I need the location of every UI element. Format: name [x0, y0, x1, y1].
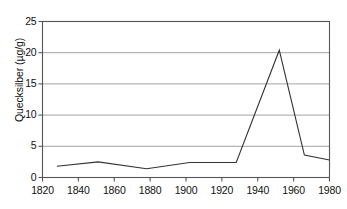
x-tick-label: 1900 — [168, 184, 204, 196]
x-tick-label: 1920 — [204, 184, 240, 196]
plot-border-group — [43, 22, 330, 178]
y-tick-label: 5 — [15, 139, 37, 151]
x-tick-label: 1880 — [132, 184, 168, 196]
y-tick-label: 15 — [15, 77, 37, 89]
chart-container: Quecksilber (µg/g) 0510152025 1820184018… — [0, 0, 347, 209]
x-tick-label: 1860 — [96, 184, 132, 196]
data-line-1 — [57, 50, 330, 169]
axis-ticks-group — [39, 22, 330, 182]
chart-plot-area — [0, 0, 347, 209]
data-series-group — [57, 50, 330, 169]
gridlines-group — [43, 53, 330, 147]
x-tick-label: 1820 — [25, 184, 61, 196]
plot-border — [43, 22, 330, 178]
y-tick-label: 0 — [15, 171, 37, 183]
y-tick-label: 10 — [15, 108, 37, 120]
x-tick-label: 1960 — [276, 184, 312, 196]
x-tick-label: 1940 — [240, 184, 276, 196]
x-tick-label: 1840 — [60, 184, 96, 196]
y-tick-label: 20 — [15, 46, 37, 58]
y-tick-label: 25 — [15, 15, 37, 27]
x-tick-label: 1980 — [312, 184, 347, 196]
